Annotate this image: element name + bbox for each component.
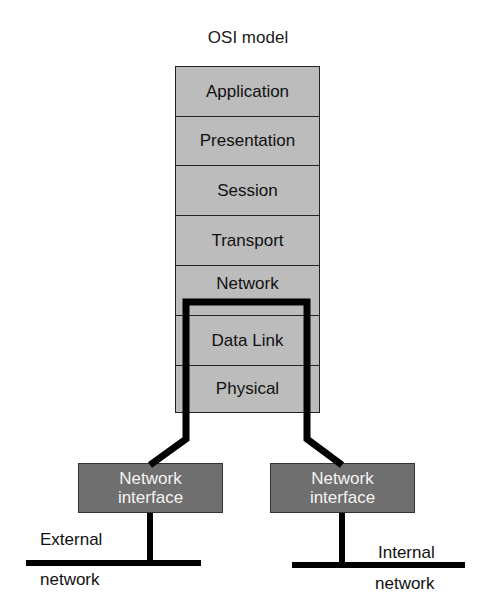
external-label-line2: network [40,570,100,590]
internal-label-line2: network [375,574,435,594]
internal-label-line1: Internal [378,543,435,563]
external-label-line1: External [40,530,102,550]
connection-lines [0,0,496,614]
left-route-line [150,302,342,465]
